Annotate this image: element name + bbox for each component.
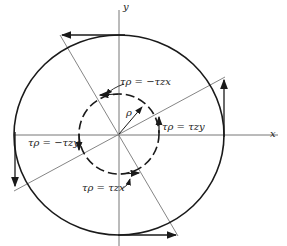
- label-radius: ρ: [126, 107, 132, 118]
- y-axis-label: y: [123, 1, 129, 12]
- label-left: τρ = −τzy: [28, 137, 79, 148]
- x-axis-label: x: [270, 128, 276, 139]
- label-bottom: τρ = τzx: [82, 182, 125, 193]
- label-right: τρ = τzy: [162, 121, 205, 132]
- label-top: τρ = −τzx: [120, 76, 171, 87]
- torsion-diagram: [0, 0, 287, 246]
